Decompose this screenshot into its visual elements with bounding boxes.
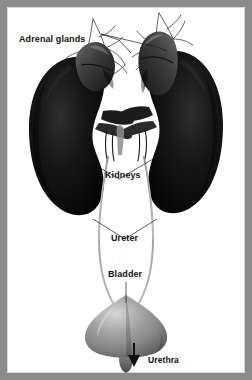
label-urethra: Urethra [148,355,179,365]
label-ureter: Ureter [111,233,138,243]
right-adrenal-gland [138,32,177,96]
figure-frame: Adrenal glands Kidneys Ureter Bladder Ur… [0,0,252,380]
renal-vessels [95,106,157,161]
figure-panel: Adrenal glands Kidneys Ureter Bladder Ur… [7,7,245,373]
label-adrenal-glands: Adrenal glands [19,34,85,44]
urinary-system-illustration [7,7,245,373]
label-kidneys: Kidneys [105,170,141,180]
label-bladder: Bladder [108,269,142,279]
